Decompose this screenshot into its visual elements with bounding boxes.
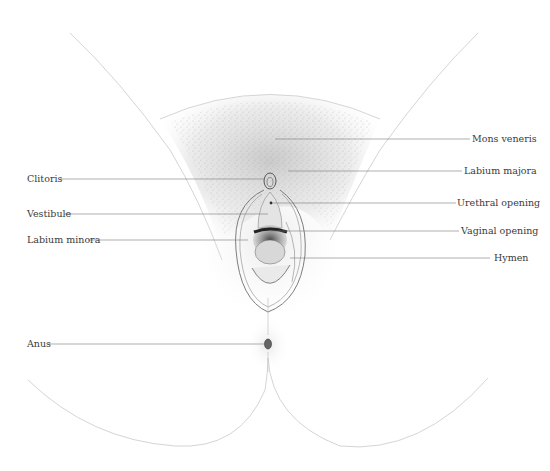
- label-vestibule: Vestibule: [27, 209, 71, 219]
- label-labium-minora: Labium minora: [27, 235, 100, 245]
- label-mons-veneris: Mons veneris: [472, 134, 537, 144]
- label-vaginal-opening: Vaginal opening: [461, 226, 538, 236]
- label-labium-majora: Labium majora: [464, 166, 537, 176]
- label-urethral-opening: Urethral opening: [457, 198, 540, 208]
- label-clitoris: Clitoris: [27, 174, 62, 184]
- urethral-opening-dot: [270, 202, 273, 205]
- label-hymen: Hymen: [494, 253, 528, 263]
- anus-shape: [265, 339, 272, 349]
- label-anus: Anus: [27, 339, 51, 349]
